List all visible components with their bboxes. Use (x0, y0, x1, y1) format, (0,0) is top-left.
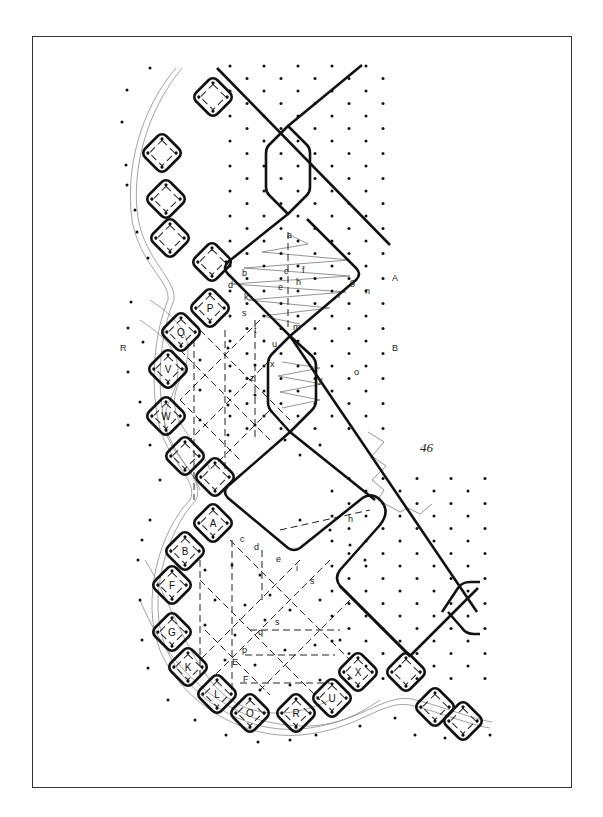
pin-box-label: P (207, 303, 214, 314)
pin-label: z (250, 373, 255, 383)
pin-label: q (258, 627, 263, 637)
pin-labels: ABRabcfdehgnkistmuxzyocdehissqpEF (120, 230, 398, 684)
pin-box-label: W (161, 411, 171, 422)
pin-box (145, 178, 187, 220)
pin-box (192, 76, 234, 118)
pin-label: s (242, 308, 247, 318)
pin-label: s (275, 617, 280, 627)
pin-box-label: A (210, 518, 217, 529)
pin-label: d (254, 542, 259, 552)
pin-label: e (278, 282, 283, 292)
pin-label: E (232, 657, 238, 667)
pin-label: h (296, 277, 301, 287)
pin-label: i (338, 290, 340, 300)
pin-label: e (276, 554, 281, 564)
zigzag-threads (232, 236, 432, 514)
pin-label: a (287, 230, 292, 240)
side-label: A (392, 273, 398, 283)
pin-label: g (350, 277, 355, 287)
pin-box (191, 241, 233, 283)
side-label: B (392, 343, 398, 353)
page-number: 46 (420, 440, 434, 455)
pin-label: f (302, 265, 305, 275)
pin-label: t (254, 325, 257, 335)
pin-box (149, 217, 191, 259)
pin-label: k (244, 292, 249, 302)
pin-label: h (348, 514, 353, 524)
pin-box-label: X (355, 667, 362, 678)
pin-label: F (243, 674, 249, 684)
pin-label: b (242, 268, 247, 278)
pin-label: n (365, 286, 370, 296)
pin-label: c (284, 266, 289, 276)
pin-box-label: V (165, 364, 172, 375)
pin-label: d (228, 280, 233, 290)
pin-label: y (318, 375, 323, 385)
pin-box-label: U (328, 693, 335, 704)
pin-box-label: G (168, 627, 176, 638)
pin-box (141, 132, 183, 174)
pin-box (385, 651, 427, 693)
pin-box-label: Q (177, 327, 185, 338)
pin-label: m (293, 322, 301, 332)
pin-box-label: L (214, 689, 220, 700)
pin-label: u (272, 339, 277, 349)
pin-box-label: K (185, 662, 192, 673)
lace-pricking-diagram: PQVWABFGKLORUX ABRabcfdehgnkistmuxzyocde… (0, 0, 603, 817)
pin-label: p (242, 645, 247, 655)
pin-box-label: F (169, 580, 175, 591)
pin-label: c (240, 534, 245, 544)
pin-box-label: R (292, 708, 299, 719)
side-label: R (120, 343, 127, 353)
pin-box-label: B (182, 546, 189, 557)
pin-label: x (270, 359, 275, 369)
pin-label: o (354, 367, 359, 377)
middle-hexagon (268, 336, 316, 432)
pin-label: s (310, 576, 315, 586)
pin-box-label: O (246, 708, 254, 719)
pin-label: i (296, 563, 298, 573)
